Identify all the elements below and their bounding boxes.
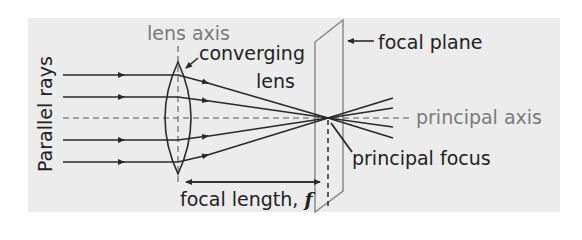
ray-1-diverging (328, 118, 393, 138)
ray-3-diverging (328, 108, 393, 118)
converging-lens-label-line1: converging (199, 44, 305, 63)
focal-length-text: focal length, (180, 188, 304, 210)
principal-axis-label: principal axis (416, 108, 542, 127)
ray-4-diverging (328, 98, 393, 118)
principal-focus-label: principal focus (352, 149, 491, 168)
parallel-rays-label: Parallel rays (36, 56, 55, 172)
ray-2-refracted (178, 97, 208, 101)
focal-plane-label: focal plane (378, 33, 482, 52)
ray-4-refracted (178, 155, 208, 162)
ray-3-refracted (178, 136, 208, 140)
focal-length-symbol: f (304, 188, 312, 210)
focal-length-label: focal length, f (180, 190, 313, 209)
ray-1-refracted (178, 75, 208, 83)
converging-lens-pointer (186, 58, 198, 68)
ray-2-diverging (328, 118, 393, 127)
principal-focus-pointer (331, 123, 352, 152)
lens-axis-label: lens axis (147, 24, 230, 43)
converging-lens-label-line2: lens (256, 72, 295, 91)
